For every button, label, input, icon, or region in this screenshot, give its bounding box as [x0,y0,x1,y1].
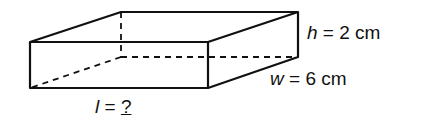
top-face-edges [30,12,298,42]
width-label: w = 6 cm [270,68,347,90]
front-face [30,42,208,88]
prism-diagram [0,0,432,126]
hidden-edges [30,12,298,88]
length-label: l = ? [95,96,131,118]
height-label: h = 2 cm [307,22,380,44]
